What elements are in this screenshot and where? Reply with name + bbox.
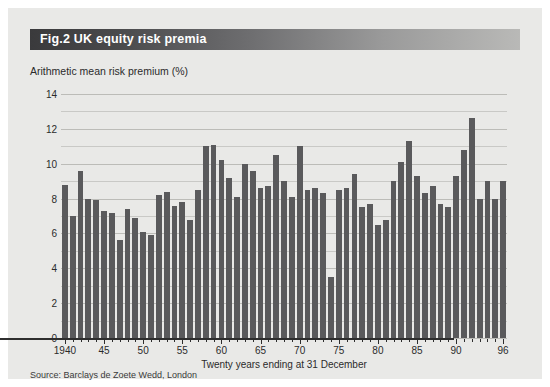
bar xyxy=(305,190,311,338)
x-axis-tick-mark xyxy=(339,339,340,344)
y-axis-tick-label: 2 xyxy=(29,298,57,309)
x-axis-tick-mark xyxy=(409,339,410,342)
x-axis-tick-label: 50 xyxy=(138,345,149,356)
bar xyxy=(352,174,358,338)
bar xyxy=(445,207,451,338)
x-axis-tick-mark xyxy=(378,339,379,344)
bar xyxy=(438,204,444,338)
bar xyxy=(406,141,412,338)
x-axis-tick-mark xyxy=(151,339,152,342)
plot-area xyxy=(61,94,507,338)
bar xyxy=(258,188,264,338)
y-axis-title: Arithmetic mean risk premium (%) xyxy=(30,65,188,77)
x-axis-tick-label: 65 xyxy=(255,345,266,356)
bar xyxy=(336,190,342,338)
bar xyxy=(398,162,404,338)
bar xyxy=(179,202,185,338)
x-axis-tick-mark xyxy=(88,339,89,342)
bar xyxy=(281,181,287,338)
bar xyxy=(492,199,498,338)
y-axis-tick-label: 10 xyxy=(29,158,57,169)
x-axis-tick-mark xyxy=(394,339,395,342)
x-axis-tick-mark xyxy=(386,339,387,342)
bar xyxy=(219,160,225,338)
x-axis-tick-mark xyxy=(354,339,355,342)
bar xyxy=(195,190,201,338)
x-axis-tick-mark xyxy=(480,339,481,342)
bar xyxy=(211,145,217,338)
x-axis-tick-mark xyxy=(245,339,246,342)
x-axis-tick-mark xyxy=(182,339,183,344)
bar xyxy=(172,206,178,338)
x-axis-tick-mark xyxy=(128,339,129,342)
bar xyxy=(367,204,373,338)
bar xyxy=(234,197,240,338)
bar xyxy=(101,211,107,338)
x-axis-tick-mark xyxy=(425,339,426,342)
bar xyxy=(93,200,99,338)
bar xyxy=(391,181,397,338)
bar xyxy=(461,150,467,338)
figure-title: UK equity risk premia xyxy=(74,32,207,46)
bar xyxy=(148,235,154,338)
bar xyxy=(70,216,76,338)
bar xyxy=(273,155,279,338)
gridline xyxy=(61,94,507,95)
x-axis-tick-mark xyxy=(495,339,496,342)
y-axis-tick-label: 6 xyxy=(29,228,57,239)
bar xyxy=(125,209,131,338)
x-axis-tick-label: 55 xyxy=(177,345,188,356)
bar xyxy=(328,277,334,338)
bar xyxy=(85,199,91,338)
x-axis-tick-mark xyxy=(362,339,363,342)
x-axis-tick-mark xyxy=(268,339,269,342)
x-axis-tick-mark xyxy=(96,339,97,342)
x-axis-tick-mark xyxy=(221,339,222,344)
x-axis-tick-label: 70 xyxy=(294,345,305,356)
x-axis-tick-mark xyxy=(307,339,308,342)
x-axis-tick-mark xyxy=(456,339,457,344)
x-axis-tick-mark xyxy=(323,339,324,342)
bar xyxy=(469,118,475,338)
bar xyxy=(132,218,138,338)
x-axis-tick-label: 60 xyxy=(216,345,227,356)
bar xyxy=(359,207,365,338)
x-axis-tick-mark xyxy=(253,339,254,342)
x-axis-tick-mark xyxy=(198,339,199,342)
x-axis-tick-mark xyxy=(167,339,168,342)
bar xyxy=(477,199,483,338)
x-axis-tick-mark xyxy=(284,339,285,342)
y-axis: 02468101214 xyxy=(24,94,57,338)
x-axis-tick-mark xyxy=(292,339,293,342)
x-axis-tick-mark xyxy=(448,339,449,342)
bar xyxy=(109,213,115,338)
gridline xyxy=(61,129,507,130)
x-axis-tick-mark xyxy=(159,339,160,342)
x-axis-tick-mark xyxy=(433,339,434,342)
figure-title-bar: Fig.2 UK equity risk premia xyxy=(30,29,520,50)
x-axis-tick-mark xyxy=(229,339,230,342)
x-axis-tick-mark xyxy=(237,339,238,342)
bar xyxy=(430,186,436,338)
x-axis-tick-mark xyxy=(143,339,144,344)
bar xyxy=(414,176,420,338)
x-axis-tick-label: 75 xyxy=(333,345,344,356)
gridline xyxy=(61,164,507,165)
bar xyxy=(164,192,170,338)
x-axis-tick-mark xyxy=(503,339,504,344)
x-axis-tick-mark xyxy=(300,339,301,344)
x-axis-tick-label: 96 xyxy=(498,345,509,356)
x-axis-tick-mark xyxy=(440,339,441,342)
gridline xyxy=(61,146,507,147)
x-axis-tick-mark xyxy=(206,339,207,342)
x-axis-tick-label: 45 xyxy=(98,345,109,356)
bar xyxy=(78,171,84,338)
x-axis-tick-mark xyxy=(112,339,113,342)
bar xyxy=(312,188,318,338)
x-axis-tick-mark xyxy=(120,339,121,342)
bar xyxy=(265,186,271,338)
bar xyxy=(62,185,68,338)
x-axis-tick-label: 85 xyxy=(411,345,422,356)
x-axis-tick-mark xyxy=(73,339,74,342)
x-axis-tick-mark xyxy=(464,339,465,342)
